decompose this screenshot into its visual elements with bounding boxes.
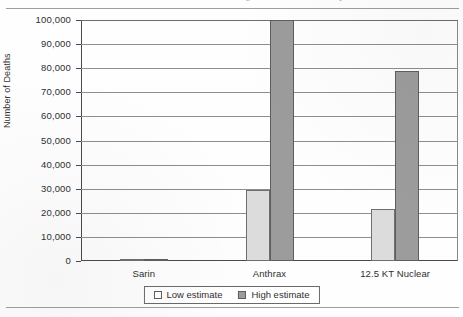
legend-swatch-low-icon: [153, 291, 161, 299]
legend-label-high: High estimate: [251, 289, 309, 300]
bar-sarin-low: [120, 259, 144, 261]
bar-chart: Number of Deaths 010,00020,00030,00040,0…: [0, 10, 463, 306]
chart-legend: Low estimate High estimate: [143, 286, 319, 304]
bar-anthrax-low: [246, 190, 270, 261]
y-axis-tick: [76, 92, 81, 93]
scanned-page: Aerosol Release of Chemical, Biological,…: [0, 0, 463, 317]
y-axis-tick: [76, 261, 81, 262]
y-axis-tick-label: 10,000: [41, 231, 71, 242]
y-axis-tick: [76, 237, 81, 238]
y-axis-tick-label: 80,000: [41, 62, 71, 73]
bar-12-5-kt-nuclear-high: [395, 71, 419, 261]
y-axis-label: Number of Deaths: [2, 114, 12, 128]
y-axis-tick-label: 0: [66, 255, 71, 266]
y-axis-tick-label: 40,000: [41, 159, 71, 170]
y-axis-tick-label: 30,000: [41, 183, 71, 194]
bar-anthrax-high: [270, 20, 294, 261]
y-axis-tick-label: 50,000: [41, 135, 71, 146]
y-axis-tick-label: 20,000: [41, 207, 71, 218]
legend-swatch-high-icon: [238, 291, 246, 299]
y-axis-tick: [76, 68, 81, 69]
bar-12-5-kt-nuclear-low: [371, 209, 395, 261]
y-axis-tick-label: 70,000: [41, 86, 71, 97]
y-axis-tick: [76, 165, 81, 166]
plot-area: [81, 20, 458, 261]
y-axis-tick-label: 100,000: [36, 14, 71, 25]
legend-item-low: Low estimate: [153, 289, 222, 300]
y-axis-tick: [76, 20, 81, 21]
y-axis-tick: [76, 141, 81, 142]
y-axis-tick: [76, 116, 81, 117]
bar-sarin-high: [144, 259, 168, 261]
y-axis-tick-label: 90,000: [41, 38, 71, 49]
y-axis-tick: [76, 189, 81, 190]
x-axis-tick-label: 12.5 KT Nuclear: [335, 268, 455, 279]
y-axis-tick: [76, 44, 81, 45]
footer-rule: [6, 307, 459, 308]
legend-label-low: Low estimate: [166, 289, 222, 300]
x-axis-tick-label: Sarin: [84, 268, 204, 279]
x-axis-tick-label: Anthrax: [210, 268, 330, 279]
legend-item-high: High estimate: [238, 289, 309, 300]
cut-off-header-text: Aerosol Release of Chemical, Biological,…: [0, 0, 463, 5]
header-rule: [6, 8, 459, 9]
y-axis-tick: [76, 213, 81, 214]
y-axis-tick-label: 60,000: [41, 110, 71, 121]
